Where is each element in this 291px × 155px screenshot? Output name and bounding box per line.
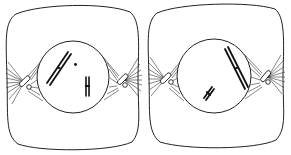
cell-1 — [6, 5, 142, 149]
cell-division-figure: Two animal cells in prophase of cell div… — [0, 0, 291, 155]
nucleus — [177, 39, 251, 113]
nucleus — [37, 41, 109, 113]
cell-2 — [148, 4, 285, 148]
chromosome-dot — [74, 63, 77, 66]
